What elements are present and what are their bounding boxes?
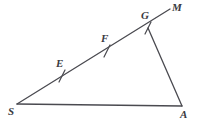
ray-s-to-m <box>17 9 170 104</box>
congruence-tick-e <box>59 70 65 82</box>
point-label-g: G <box>141 10 149 21</box>
segment-s-to-a <box>17 104 182 106</box>
point-label-e: E <box>56 58 63 69</box>
point-label-s: S <box>8 106 14 117</box>
point-label-a: A <box>180 109 187 120</box>
point-label-m: M <box>172 2 182 13</box>
point-label-f: F <box>101 33 108 44</box>
congruence-tick-f <box>104 45 110 57</box>
diagram-canvas <box>0 0 198 128</box>
geometry-figure: S A G M E F <box>0 0 198 128</box>
segment-g-to-a <box>148 28 182 106</box>
